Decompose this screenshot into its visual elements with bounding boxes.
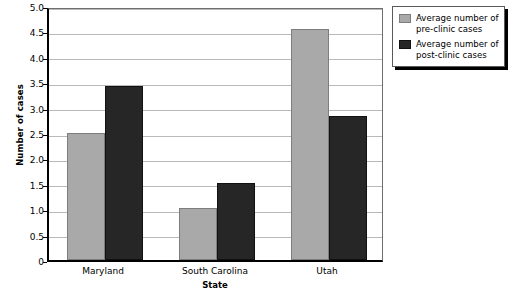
- y-tick-label: 3.0: [4, 105, 44, 115]
- x-axis-title: State: [47, 280, 383, 290]
- bars-layer: [49, 9, 382, 260]
- bar-utah-pre-clinic: [291, 29, 329, 260]
- legend-label: Average number of post-clinic cases: [416, 39, 499, 60]
- x-tick-label: Maryland: [82, 266, 124, 276]
- legend-item: Average number of pre-clinic cases: [399, 13, 499, 34]
- bar-south-carolina-post-clinic: [217, 183, 255, 260]
- y-tick-label: 0.5: [4, 232, 44, 242]
- legend-swatch-post-icon: [399, 40, 411, 49]
- y-tick-label: 2.0: [4, 155, 44, 165]
- y-tick-label: 1.5: [4, 181, 44, 191]
- legend-swatch-pre-icon: [399, 14, 411, 23]
- y-tick-mark: [43, 262, 47, 263]
- y-tick-label: 1.0: [4, 206, 44, 216]
- bar-utah-post-clinic: [329, 116, 367, 260]
- y-tick-label: 5.0: [4, 3, 44, 13]
- y-tick-label: 4.5: [4, 28, 44, 38]
- plot-area: [47, 8, 383, 262]
- bar-maryland-pre-clinic: [67, 133, 105, 260]
- x-tick-label: Utah: [316, 266, 337, 276]
- bar-chart-figure: Number of cases 00.51.01.52.02.53.03.54.…: [0, 0, 511, 298]
- y-tick-label: 3.5: [4, 79, 44, 89]
- legend: Average number of pre-clinic casesAverag…: [392, 6, 505, 67]
- x-tick-label: South Carolina: [182, 266, 248, 276]
- legend-label: Average number of pre-clinic cases: [416, 13, 499, 34]
- bar-maryland-post-clinic: [105, 86, 143, 260]
- legend-item: Average number of post-clinic cases: [399, 39, 499, 60]
- bar-south-carolina-pre-clinic: [179, 208, 217, 260]
- y-tick-label: 0: [4, 257, 44, 267]
- y-tick-label: 4.0: [4, 54, 44, 64]
- y-tick-label: 2.5: [4, 130, 44, 140]
- y-axis-ticks: 00.51.01.52.02.53.03.54.04.55.0: [0, 8, 44, 262]
